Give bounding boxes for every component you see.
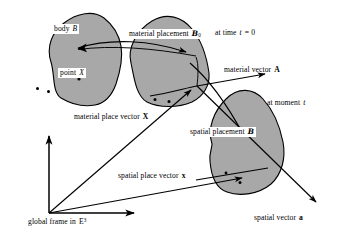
label-material-place-vector-symbol: X bbox=[143, 112, 149, 121]
label-body: bodyB bbox=[52, 24, 79, 34]
label-spatial-place-vector-symbol: x bbox=[182, 171, 186, 180]
label-point-prefix: point bbox=[60, 68, 76, 77]
label-at-moment-prefix: at moment bbox=[267, 98, 300, 107]
spatial-blob-dot bbox=[225, 172, 228, 175]
label-body-prefix: body bbox=[54, 24, 70, 33]
label-material-placement-subscript: 0 bbox=[198, 32, 201, 38]
label-material-vector-symbol: A bbox=[274, 65, 280, 74]
label-global-frame-prefix: global frame in bbox=[28, 217, 76, 226]
label-material-place-vector: material place vectorX bbox=[72, 112, 150, 122]
label-spatial-placement-prefix: spatial placement bbox=[190, 127, 245, 136]
spatial-place-vector-x-group bbox=[49, 178, 242, 213]
label-at-time-symbol: t bbox=[240, 28, 242, 37]
label-material-placement: material placementB0 bbox=[127, 29, 203, 39]
material-blob-dot bbox=[154, 98, 157, 101]
material-place-vector-X-line bbox=[49, 90, 191, 213]
label-spatial-vector-symbol: a bbox=[299, 213, 303, 222]
label-material-vector-prefix: material vector bbox=[224, 65, 271, 74]
material-blob-dot bbox=[168, 100, 171, 103]
body-dot bbox=[47, 90, 50, 93]
body-dot bbox=[36, 87, 39, 90]
label-at-moment-t: at momentt bbox=[267, 99, 305, 107]
continuum-placement-diagram: bodyB pointX material placementB0 at tim… bbox=[0, 0, 341, 238]
label-material-placement-prefix: material placement bbox=[129, 29, 189, 38]
label-spatial-vector-prefix: spatial vector bbox=[254, 213, 296, 222]
label-point: pointX bbox=[58, 68, 86, 78]
label-global-frame-superscript: 3 bbox=[84, 217, 87, 223]
label-material-vector: material vectorA bbox=[224, 66, 280, 74]
label-global-frame: global frame inE3 bbox=[28, 218, 86, 226]
label-at-time-equals: = 0 bbox=[245, 28, 255, 37]
label-spatial-place-vector-prefix: spatial place vector bbox=[118, 171, 179, 180]
label-material-place-vector-prefix: material place vector bbox=[74, 112, 140, 121]
label-spatial-placement-symbol: B bbox=[248, 127, 254, 136]
spatial-place-vector-x-line bbox=[49, 178, 242, 213]
label-point-symbol: X bbox=[79, 68, 84, 77]
label-spatial-vector: spatial vectora bbox=[254, 214, 303, 222]
label-at-time-zero: at timet= 0 bbox=[215, 29, 255, 37]
material-place-vector-X-group bbox=[49, 90, 191, 213]
label-spatial-placement: spatial placementB bbox=[188, 127, 256, 137]
label-body-symbol: B bbox=[73, 24, 78, 33]
label-at-moment-symbol: t bbox=[303, 98, 305, 107]
spatial-blob-dot bbox=[239, 181, 242, 184]
label-spatial-place-vector: spatial place vectorx bbox=[116, 171, 188, 181]
label-at-time-prefix: at time bbox=[215, 28, 237, 37]
